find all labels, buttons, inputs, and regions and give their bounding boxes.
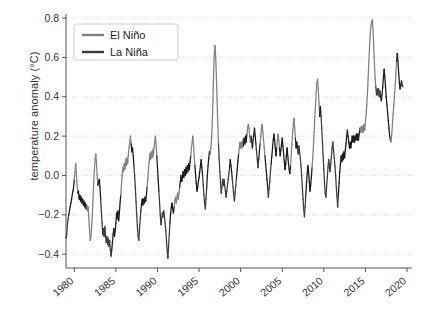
- y-tick-label: 0.8: [44, 12, 59, 24]
- enso-temperature-anomaly-chart: −0.4−0.20.00.20.40.60.8 1980198519901995…: [0, 0, 424, 313]
- y-axis-label: temperature anomaly (°C): [28, 26, 40, 206]
- y-tick-label: −0.2: [38, 208, 59, 220]
- legend-label-el-nino: El Niño: [110, 29, 145, 41]
- y-tick-label: 0.2: [44, 130, 59, 142]
- legend-label-la-nina: La Niña: [110, 46, 149, 58]
- y-tick-label: 0.6: [44, 51, 59, 63]
- y-tick-label: 0.0: [44, 169, 59, 181]
- y-tick-label: 0.4: [44, 90, 59, 102]
- chart-background: [0, 0, 424, 313]
- y-tick-label: −0.4: [38, 248, 59, 260]
- chart-legend: El NiñoLa Niña: [74, 24, 178, 60]
- chart-canvas: −0.4−0.20.00.20.40.60.8 1980198519901995…: [0, 0, 424, 313]
